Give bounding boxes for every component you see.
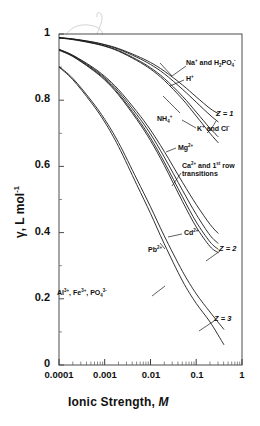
y-axis-gamma: γ (13, 231, 27, 238)
mg-charge: 2+ (188, 143, 193, 148)
cl-text: and Cl (205, 125, 228, 132)
po4-sub: 4 (232, 63, 235, 68)
curve (59, 38, 218, 114)
annotation-al-fe-po4: Al3+, Fe3+, PO43- (57, 289, 107, 297)
x-tick-0.1: 0.1 (182, 370, 212, 380)
nh4-sub: 4 (167, 119, 170, 124)
data-curves (59, 38, 224, 345)
annotation-z2: Z = 2 (219, 245, 236, 253)
curve (59, 50, 218, 249)
curve (59, 67, 224, 344)
annotation-na-h2po4: Na+ and H2PO4- (186, 59, 236, 67)
x-tick-0.0001: 0.0001 (34, 370, 84, 380)
h-charge: + (191, 74, 194, 79)
cl-charge: - (228, 124, 230, 129)
cd-text: Cd (184, 229, 193, 236)
x-axis-title-symbol: M (159, 395, 169, 409)
y-tick-1: 1 (22, 27, 50, 39)
cd-charge: 2+ (193, 228, 198, 233)
ca-and: and 1 (196, 162, 216, 169)
ca-row-word: row (220, 162, 234, 169)
y-axis-units: , L mol (13, 193, 27, 231)
annotation-nh4: NH4+ (157, 115, 172, 123)
po4-charge-2: 3- (103, 288, 107, 293)
annotation-k-cl: K+ and Cl- (197, 125, 230, 133)
po4-charge: - (234, 58, 236, 63)
pb-text: Pb (148, 246, 157, 253)
x-axis-title-main: Ionic Strength, (68, 395, 155, 409)
po4-sub-2: 4 (100, 293, 103, 298)
nh4-text: NH (157, 115, 167, 122)
ca-text: Ca (182, 162, 191, 169)
annotation-cd: Cd2+ (184, 229, 198, 237)
x-axis-title: Ionic Strength, M (68, 396, 169, 409)
al-text: Al (57, 289, 64, 296)
y-tick-0.2: 0.2 (14, 292, 50, 304)
x-tick-0.001: 0.001 (84, 370, 126, 380)
y-axis-title: γ, L mol-1 (14, 186, 27, 238)
x-tick-0.01: 0.01 (133, 370, 169, 380)
fe-text: , Fe (69, 289, 81, 296)
x-axis-minor-ticks (73, 362, 240, 366)
annotation-mg: Mg2+ (178, 144, 193, 152)
pb-charge: 2+ (157, 245, 162, 250)
curve (59, 49, 218, 233)
ca-transitions: transitions (182, 170, 218, 177)
x-tick-1: 1 (232, 370, 252, 380)
na-text: Na (186, 59, 195, 66)
na-and: and H (198, 59, 219, 66)
annotation-z1: Z = 1 (216, 110, 233, 118)
mg-text: Mg (178, 144, 188, 151)
annotation-ca-row: Ca2+ and 1st row transitions (182, 162, 235, 177)
activity-coefficient-chart: 1 0.8 0.6 0.4 0.2 0 γ, L mol-1 0.0001 0.… (0, 0, 260, 426)
annotation-h-plus: H+ (186, 75, 194, 83)
po4-text: , PO (86, 289, 100, 296)
curve (59, 50, 218, 252)
y-tick-0.8: 0.8 (14, 93, 50, 105)
po-text: PO (221, 59, 231, 66)
annotation-z3: Z = 3 (214, 315, 231, 323)
curve (59, 50, 218, 244)
y-tick-0.6: 0.6 (14, 159, 50, 171)
scan-artifact (66, 13, 102, 35)
annotation-pb: Pb2+ (148, 246, 162, 254)
y-axis-exponent: -1 (12, 186, 21, 193)
nh4-charge: + (170, 114, 173, 119)
